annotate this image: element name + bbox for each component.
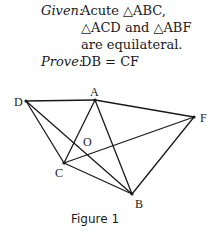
vertex-c: [62, 161, 65, 164]
figure-caption: Figure 1: [0, 212, 190, 226]
segment-af: [95, 100, 194, 117]
figure-segments: [26, 100, 194, 194]
segment-da: [26, 100, 95, 101]
label-a: A: [90, 85, 99, 99]
vertex-d: [24, 99, 27, 102]
label-b: B: [135, 197, 143, 211]
vertex-b: [130, 192, 133, 195]
label-f: F: [200, 111, 207, 125]
geometry-figure: D A F O C B: [0, 0, 216, 234]
vertex-f: [192, 115, 195, 118]
label-o: O: [83, 135, 92, 149]
label-c: C: [55, 166, 63, 180]
label-d: D: [14, 95, 23, 109]
segment-dc: [26, 101, 64, 163]
segment-db: [26, 101, 132, 194]
